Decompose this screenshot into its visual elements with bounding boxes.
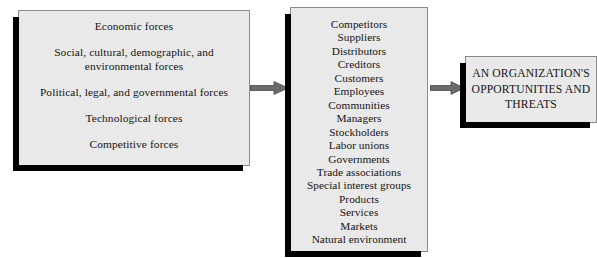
stakeholder-item: Distributors (297, 45, 421, 58)
stakeholder-item: Natural environment (297, 233, 421, 246)
external-force-item: Economic forces (29, 20, 239, 34)
stakeholder-item: Governments (297, 153, 421, 166)
stakeholder-item: Special interest groups (297, 179, 421, 192)
stakeholder-item: Creditors (297, 58, 421, 71)
stakeholder-item: Markets (297, 220, 421, 233)
external-force-item: Social, cultural, demographic, and envir… (29, 46, 239, 73)
stakeholder-item: Communities (297, 99, 421, 112)
arrow-right-icon (250, 80, 290, 96)
stakeholder-item: Suppliers (297, 31, 421, 44)
stakeholder-item: Managers (297, 112, 421, 125)
stakeholders-box: Competitors Suppliers Distributors Credi… (290, 7, 428, 252)
opportunities-threats-box: AN ORGANIZATION'S OPPORTUNITIES AND THRE… (465, 56, 597, 123)
stakeholder-item: Competitors (297, 18, 421, 31)
stakeholder-item: Labor unions (297, 139, 421, 152)
stakeholder-item: Trade associations (297, 166, 421, 179)
external-forces-box: Economic forces Social, cultural, demogr… (18, 10, 250, 166)
external-force-item: Political, legal, and governmental force… (29, 86, 239, 100)
stakeholder-item: Products (297, 193, 421, 206)
outcome-line: THREATS (470, 97, 592, 113)
stakeholder-item: Services (297, 206, 421, 219)
stakeholder-item: Employees (297, 85, 421, 98)
external-force-item: Competitive forces (29, 138, 239, 152)
outcome-line: AN ORGANIZATION'S (470, 66, 592, 82)
external-force-item: Technological forces (29, 112, 239, 126)
stakeholder-item: Customers (297, 72, 421, 85)
stakeholder-item: Stockholders (297, 126, 421, 139)
outcome-line: OPPORTUNITIES AND (470, 82, 592, 98)
